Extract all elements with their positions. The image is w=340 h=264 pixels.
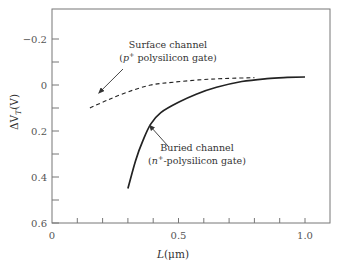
annotation-arrow	[149, 125, 168, 146]
x-tick-label: 0	[49, 230, 55, 241]
annotation-line-1: Buried channel	[160, 142, 233, 153]
surface-channel-annotation: Surface channel(p+ polysilicon gate)	[99, 39, 217, 93]
x-axis-label: L(μm)	[156, 248, 189, 260]
annotation-line-2: (n+-polysilicon gate)	[148, 154, 246, 166]
x-axis-ticks: 00.51.0	[49, 218, 313, 241]
x-tick-label: 1.0	[297, 230, 313, 241]
surface-channel-curve	[90, 78, 255, 108]
y-axis-ticks: −0.200.20.40.6	[23, 34, 59, 229]
y-tick-label: 0.6	[31, 218, 47, 229]
annotations: Surface channel(p+ polysilicon gate)Buri…	[99, 39, 246, 166]
buried-channel-curve	[128, 77, 305, 189]
chart: −0.200.20.40.6 00.51.0 Surface channel(p…	[0, 0, 340, 264]
y-tick-label: 0.4	[31, 172, 47, 183]
y-axis-label: ΔVT(V)	[8, 94, 23, 130]
y-tick-label: 0.2	[31, 126, 47, 137]
buried-channel-annotation: Buried channel(n+-polysilicon gate)	[148, 125, 246, 166]
annotation-line-1: Surface channel	[129, 39, 207, 50]
series-group	[90, 77, 305, 189]
y-tick-label: 0	[41, 80, 47, 91]
annotation-arrow	[99, 69, 123, 93]
x-tick-label: 0.5	[171, 230, 187, 241]
y-tick-label: −0.2	[23, 34, 47, 45]
annotation-line-2: (p+ polysilicon gate)	[119, 51, 217, 63]
